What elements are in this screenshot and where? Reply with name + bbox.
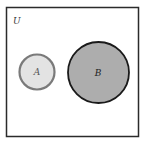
set-a-label: A (33, 67, 41, 77)
venn-diagram: U A B (0, 0, 143, 141)
set-b-label: B (94, 68, 102, 78)
universe-label: U (13, 16, 21, 26)
